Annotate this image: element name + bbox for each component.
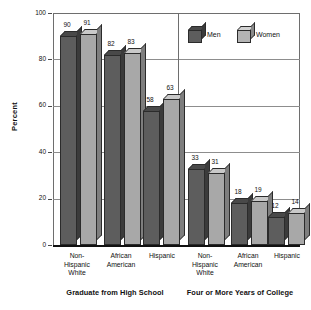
bar-front-face <box>143 111 160 245</box>
x-category-label-hispanic-hs: Hispanic <box>139 252 185 261</box>
bar-men-african-american-college <box>231 203 248 245</box>
group-title-college: Four or More Years of College <box>170 288 310 297</box>
bar-value-women-nhwhite-college: 31 <box>206 159 224 166</box>
bar-side-face <box>97 24 102 240</box>
y-tick-label-40: 40 <box>26 149 46 156</box>
y-tick-label-80: 80 <box>26 56 46 63</box>
bar-value-women-hispanic-college: 14 <box>286 199 304 206</box>
x-axis-baseline <box>53 245 300 247</box>
y-tick-mark-40 <box>48 152 52 153</box>
bar-value-men-hispanic-college: 12 <box>266 203 284 210</box>
y-tick-mark-100 <box>48 13 52 14</box>
cube-dark-icon <box>188 30 202 43</box>
cat-line: White <box>54 269 100 278</box>
x-category-label-hispanic-college: Hispanic <box>264 252 310 261</box>
bar-front-face <box>60 36 77 245</box>
bar-value-men-nhwhite-college: 33 <box>186 155 204 162</box>
y-tick-mark-60 <box>48 106 52 107</box>
y-tick-label-20: 20 <box>26 195 46 202</box>
cat-line: Hispanic <box>139 252 185 261</box>
bar-value-women-african-american-hs: 83 <box>122 39 140 46</box>
legend-label-women: Women <box>256 31 280 38</box>
x-category-label-nhwhite-college: Non- Hispanic White <box>182 252 228 278</box>
bar-women-nhwhite-hs <box>80 34 97 245</box>
bar-value-women-hispanic-hs: 63 <box>161 85 179 92</box>
x-category-label-african-american-hs: African American <box>98 252 144 269</box>
bar-front-face <box>80 34 97 245</box>
bar-men-nhwhite-hs <box>60 36 77 245</box>
bar-men-nhwhite-college <box>188 169 205 245</box>
bar-side-face <box>225 163 230 240</box>
legend-label-men: Men <box>207 31 221 38</box>
bar-front-face <box>268 217 285 245</box>
x-category-label-nhwhite-hs: Non- Hispanic White <box>54 252 100 278</box>
bar-front-face <box>163 99 180 245</box>
bar-value-men-nhwhite-hs: 90 <box>58 22 76 29</box>
cat-line: Hispanic <box>182 261 228 270</box>
bar-women-african-american-hs <box>124 53 141 245</box>
bar-value-men-african-american-college: 18 <box>229 189 247 196</box>
bar-chart: Percent 100 80 60 40 20 0 90 91 82 <box>0 0 311 310</box>
cat-line: Non- <box>54 252 100 261</box>
cat-line: American <box>225 261 271 270</box>
y-tick-mark-20 <box>48 199 52 200</box>
bar-front-face <box>104 55 121 245</box>
cat-line: Hispanic <box>54 261 100 270</box>
chart-legend: Men Women <box>182 17 296 55</box>
cat-line: Hispanic <box>264 252 310 261</box>
bar-side-face <box>180 89 185 240</box>
cat-line: Non- <box>182 252 228 261</box>
bar-front-face <box>124 53 141 245</box>
bar-value-men-hispanic-hs: 58 <box>141 97 159 104</box>
cat-line: American <box>98 261 144 270</box>
y-tick-mark-80 <box>48 59 52 60</box>
bar-men-hispanic-hs <box>143 111 160 245</box>
bar-front-face <box>288 213 305 245</box>
y-axis-title: Percent <box>10 87 19 147</box>
cube-light-icon <box>237 30 251 43</box>
bar-value-women-african-american-college: 19 <box>249 187 267 194</box>
bar-front-face <box>188 169 205 245</box>
bar-value-men-african-american-hs: 82 <box>102 41 120 48</box>
bar-value-women-nhwhite-hs: 91 <box>78 20 96 27</box>
cat-line: African <box>98 252 144 261</box>
y-tick-label-100: 100 <box>26 10 46 17</box>
bar-men-african-american-hs <box>104 55 121 245</box>
cat-line: White <box>182 269 228 278</box>
y-tick-label-0: 0 <box>26 242 46 249</box>
bar-men-hispanic-college <box>268 217 285 245</box>
y-tick-mark-0 <box>48 245 52 246</box>
legend-item-men: Men <box>188 26 221 43</box>
bar-front-face <box>231 203 248 245</box>
y-tick-label-60: 60 <box>26 102 46 109</box>
bar-front-face <box>208 173 225 245</box>
legend-item-women: Women <box>237 26 280 43</box>
bar-women-nhwhite-college <box>208 173 225 245</box>
bar-women-hispanic-college <box>288 213 305 245</box>
bar-side-face <box>305 203 310 240</box>
group-title-high-school: Graduate from High School <box>40 288 190 297</box>
bar-women-hispanic-hs <box>163 99 180 245</box>
